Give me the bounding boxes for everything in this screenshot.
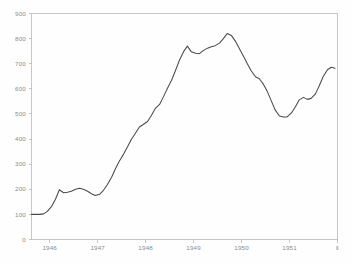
chart-container: 0100200300400500600700800900 19461947194… <box>0 0 352 263</box>
y-tick-label: 0 <box>22 236 26 243</box>
x-tick-label: 1946 <box>42 244 57 251</box>
y-tick-label: 900 <box>15 10 26 17</box>
chart-background <box>0 0 352 263</box>
y-tick-label: 300 <box>15 160 26 167</box>
y-tick-label: 600 <box>15 85 26 92</box>
line-chart: 0100200300400500600700800900 19461947194… <box>0 0 352 263</box>
y-tick-label: 500 <box>15 110 26 117</box>
x-tick-label: ‖ <box>336 244 339 251</box>
x-tick-label: 1948 <box>138 244 153 251</box>
x-tick-label: 1950 <box>234 244 249 251</box>
y-tick-label: 200 <box>15 185 26 192</box>
y-tick-label: 800 <box>15 35 26 42</box>
y-tick-label: 400 <box>15 135 26 142</box>
x-tick-label: 1951 <box>282 244 297 251</box>
y-tick-label: 700 <box>15 60 26 67</box>
x-tick-label: 1947 <box>90 244 105 251</box>
x-tick-label: 1949 <box>186 244 201 251</box>
y-tick-label: 100 <box>15 211 26 218</box>
